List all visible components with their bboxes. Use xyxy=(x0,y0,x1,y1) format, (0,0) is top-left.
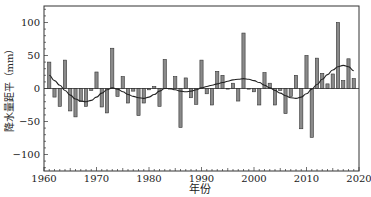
bar xyxy=(137,89,140,116)
bar xyxy=(205,89,208,94)
bar xyxy=(84,89,87,107)
bar xyxy=(74,89,77,117)
bar xyxy=(210,89,213,106)
bar xyxy=(100,89,103,107)
bar xyxy=(342,81,345,89)
bar xyxy=(284,89,287,114)
bar xyxy=(310,89,313,138)
bar xyxy=(289,89,292,97)
bar xyxy=(294,75,297,88)
bar xyxy=(184,78,187,89)
bar xyxy=(105,89,108,113)
bar xyxy=(326,84,329,89)
y-axis-label: 降水量距平（mm） xyxy=(3,44,15,133)
x-axis: 1960197019801990200020102020 xyxy=(31,167,371,184)
bar xyxy=(347,59,350,89)
x-tick-label: 2010 xyxy=(294,173,319,184)
bar xyxy=(121,77,124,89)
bar xyxy=(126,89,129,104)
bar xyxy=(63,60,66,88)
bar xyxy=(179,89,182,128)
x-tick-label: 1980 xyxy=(136,173,161,184)
bar xyxy=(258,89,261,106)
bar xyxy=(200,60,203,88)
x-tick-label: 1960 xyxy=(31,173,56,184)
bar xyxy=(231,83,234,88)
bar xyxy=(216,71,219,88)
bar xyxy=(69,89,72,111)
y-tick-label: −50 xyxy=(19,116,40,127)
bar-series xyxy=(48,23,356,138)
y-tick-label: 0 xyxy=(34,83,40,94)
y-axis: −100−50050100 xyxy=(13,9,48,167)
bar xyxy=(300,89,303,129)
chart-canvas: 1960197019801990200020102020 −100−500501… xyxy=(0,0,371,197)
y-tick-label: −100 xyxy=(13,149,40,160)
bar xyxy=(263,73,266,89)
x-tick-label: 2020 xyxy=(346,173,371,184)
bar xyxy=(237,89,240,102)
bar xyxy=(305,56,308,89)
bar xyxy=(336,23,339,89)
bar xyxy=(252,89,255,92)
bar xyxy=(352,79,355,89)
bar xyxy=(79,89,82,102)
bar xyxy=(163,59,166,88)
bar xyxy=(174,77,177,89)
bar xyxy=(111,48,114,88)
precipitation-anomaly-chart: 1960197019801990200020102020 −100−500501… xyxy=(0,0,371,197)
x-tick-label: 2000 xyxy=(241,173,266,184)
bar xyxy=(142,89,145,104)
bar xyxy=(95,72,98,89)
bar xyxy=(242,33,245,88)
y-tick-label: 50 xyxy=(27,50,40,61)
x-axis-label: 年份 xyxy=(189,182,211,196)
y-tick-label: 100 xyxy=(21,17,40,28)
bar xyxy=(53,89,56,98)
bar xyxy=(321,73,324,88)
bar xyxy=(189,89,192,98)
bar xyxy=(195,89,198,105)
bar xyxy=(58,89,61,107)
bar xyxy=(331,74,334,89)
x-tick-label: 1970 xyxy=(84,173,109,184)
